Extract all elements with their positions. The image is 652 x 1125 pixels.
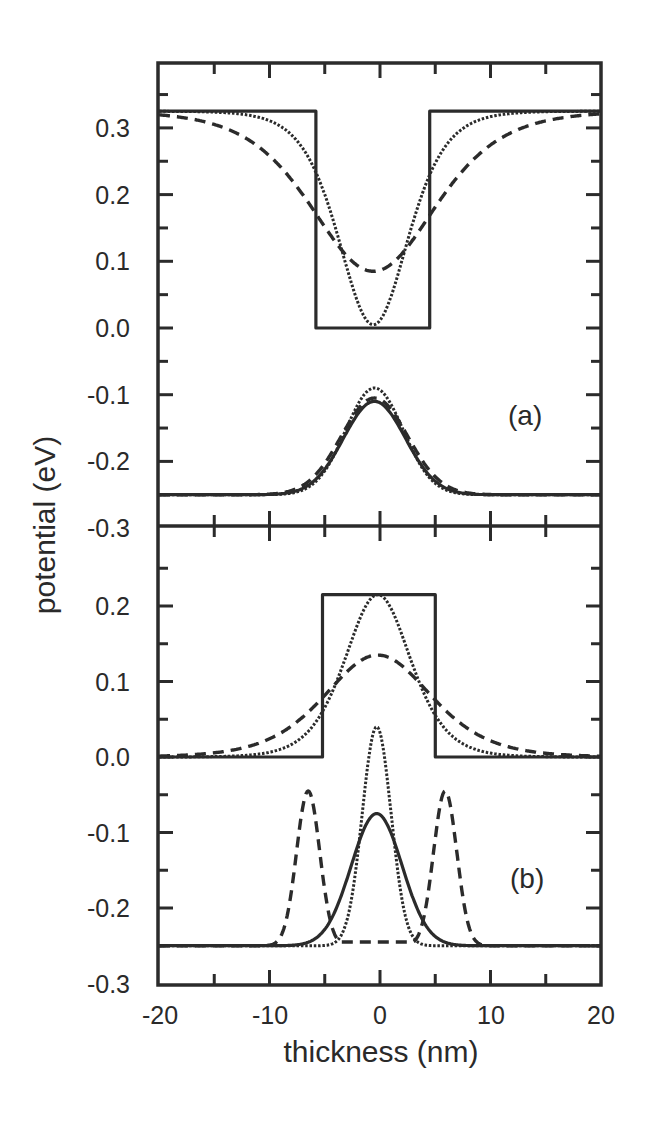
x-tick-label: 10 bbox=[477, 1001, 505, 1029]
panel-a-y-tick-labels: 0.30.20.10.0-0.1-0.2-0.3 bbox=[87, 114, 130, 542]
y-tick-label: 0.3 bbox=[95, 114, 130, 142]
y-axis-title: potential (eV) bbox=[28, 436, 61, 614]
x-tick-label: -10 bbox=[252, 1001, 288, 1029]
y-tick-label: -0.2 bbox=[87, 894, 130, 922]
panel-b-label: (b) bbox=[510, 863, 544, 894]
x-tick-label: -20 bbox=[142, 1001, 178, 1029]
y-tick-label: 0.2 bbox=[95, 181, 130, 209]
series-dotted-line bbox=[159, 727, 601, 946]
y-tick-label: -0.1 bbox=[87, 819, 130, 847]
series-dashed-line bbox=[159, 655, 601, 756]
y-tick-label: -0.3 bbox=[87, 514, 130, 542]
y-tick-label: 0.0 bbox=[95, 314, 130, 342]
panel-a-plot-area bbox=[159, 111, 601, 495]
x-tick-label: 20 bbox=[587, 1001, 615, 1029]
y-tick-label: 0.0 bbox=[95, 743, 130, 771]
x-tick-label: 0 bbox=[373, 1001, 387, 1029]
y-tick-label: -0.2 bbox=[87, 447, 130, 475]
series-dotted-line bbox=[159, 111, 601, 324]
y-tick-label: 0.1 bbox=[95, 668, 130, 696]
x-axis-title: thickness (nm) bbox=[283, 1035, 478, 1068]
series-solid-line bbox=[159, 111, 601, 328]
panel-b-y-tick-labels: 0.20.10.0-0.1-0.2-0.3 bbox=[87, 592, 130, 998]
y-tick-label: -0.3 bbox=[87, 970, 130, 998]
y-tick-label: -0.1 bbox=[87, 381, 130, 409]
y-tick-label: 0.1 bbox=[95, 247, 130, 275]
panel-a-label: (a) bbox=[508, 400, 542, 431]
series-dashed-line bbox=[159, 114, 601, 271]
x-tick-labels: -20 -10 0 10 20 bbox=[142, 1001, 615, 1029]
figure: 0.30.20.10.0-0.1-0.2-0.3 0.20.10.0-0.1-0… bbox=[0, 0, 652, 1125]
axis-ticks bbox=[158, 63, 601, 985]
y-tick-label: 0.2 bbox=[95, 592, 130, 620]
